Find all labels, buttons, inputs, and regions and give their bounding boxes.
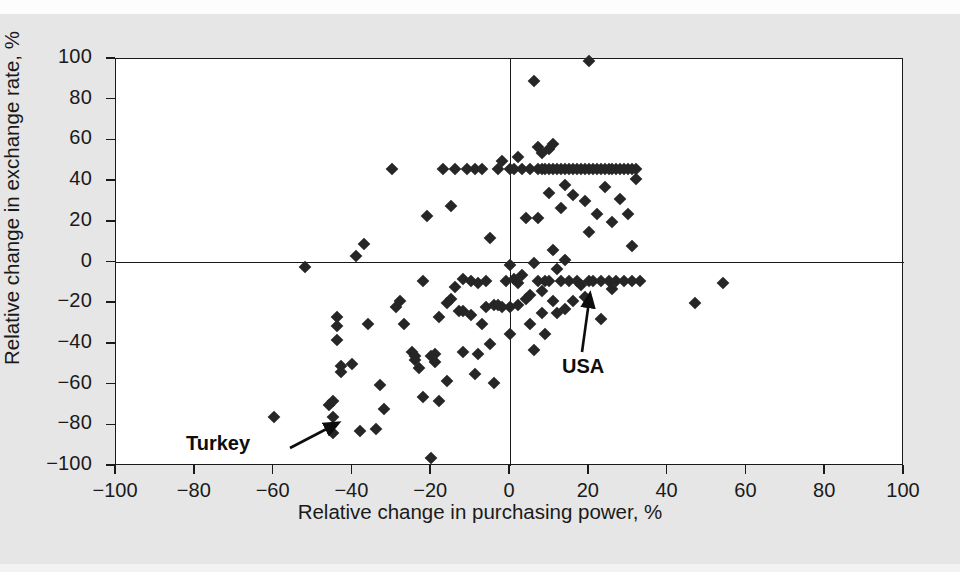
scatter-point: [413, 362, 426, 375]
scatter-point: [378, 403, 391, 416]
x-axis-tick-label: −100: [70, 479, 160, 502]
y-axis-tick-label: 60: [0, 126, 92, 149]
scatter-point: [346, 358, 359, 371]
y-axis-tick-label: −80: [0, 411, 92, 434]
scatter-point: [559, 179, 572, 192]
x-axis-tick-label: 40: [622, 479, 712, 502]
scatter-point: [350, 250, 363, 263]
scatter-point: [484, 232, 497, 245]
scatter-point: [626, 240, 639, 253]
scatter-point: [578, 291, 591, 304]
scatter-point: [504, 327, 517, 340]
scatter-point: [527, 75, 540, 88]
scatter-point: [417, 274, 430, 287]
y-axis-tick-mark: [106, 57, 115, 59]
scatter-point: [425, 451, 438, 464]
scatter-point: [523, 317, 536, 330]
scatter-point: [476, 317, 489, 330]
x-axis-tick-mark: [508, 465, 510, 474]
scatter-point: [519, 211, 532, 224]
scatter-point: [445, 199, 458, 212]
scatter-point: [326, 427, 339, 440]
scatter-point: [362, 317, 375, 330]
x-axis-tick-mark: [114, 465, 116, 474]
scatter-point: [456, 346, 469, 359]
x-axis-tick-mark: [902, 465, 904, 474]
x-axis-label: Relative change in purchasing power, %: [0, 500, 960, 524]
plot-area: [115, 58, 903, 465]
x-axis-tick-label: −60: [228, 479, 318, 502]
y-axis-tick-mark: [106, 179, 115, 181]
scatter-point: [582, 226, 595, 239]
scatter-point: [488, 376, 501, 389]
scatter-point: [547, 295, 560, 308]
scatter-point: [417, 390, 430, 403]
y-axis-tick-mark: [106, 383, 115, 385]
scatter-point: [689, 297, 702, 310]
scatter-point: [578, 195, 591, 208]
y-axis-tick-label: −20: [0, 289, 92, 312]
page-top-margin: [0, 0, 960, 14]
scatter-point: [421, 209, 434, 222]
scatter-point: [374, 378, 387, 391]
scatter-point: [472, 348, 485, 361]
y-axis-tick-label: −40: [0, 330, 92, 353]
scatter-point: [437, 163, 450, 176]
scatter-point: [590, 207, 603, 220]
scatter-point: [594, 313, 607, 326]
x-axis-tick-label: 0: [464, 479, 554, 502]
scatter-point: [634, 274, 647, 287]
scatter-point: [622, 207, 635, 220]
y-axis-tick-label: 80: [0, 86, 92, 109]
y-axis-tick-mark: [106, 139, 115, 141]
x-axis-tick-label: 20: [543, 479, 633, 502]
scatter-point: [559, 254, 572, 267]
y-axis-tick-mark: [106, 98, 115, 100]
scatter-point: [354, 425, 367, 438]
annotation-label-usa: USA: [562, 355, 604, 378]
scatter-point: [555, 201, 568, 214]
scatter-point: [370, 423, 383, 436]
y-axis-tick-mark: [106, 301, 115, 303]
scatter-point: [527, 344, 540, 357]
x-axis-tick-mark: [351, 465, 353, 474]
scatter-point: [441, 374, 454, 387]
scatter-point: [531, 211, 544, 224]
figure-container: Relative change in exchange rate, % Rela…: [0, 0, 960, 572]
scatter-point: [448, 163, 461, 176]
scatter-point: [567, 189, 580, 202]
x-axis-tick-label: 80: [779, 479, 869, 502]
scatter-point: [330, 333, 343, 346]
annotation-label-turkey: Turkey: [186, 432, 250, 455]
x-axis-tick-mark: [272, 465, 274, 474]
y-axis-tick-label: 0: [0, 249, 92, 272]
scatter-point: [358, 238, 371, 251]
scatter-point: [551, 262, 564, 275]
x-axis-tick-mark: [823, 465, 825, 474]
x-axis-tick-mark: [745, 465, 747, 474]
scatter-point: [385, 163, 398, 176]
scatter-point: [547, 244, 560, 257]
scatter-point: [267, 411, 280, 424]
scatter-point: [468, 368, 481, 381]
y-axis-tick-label: 20: [0, 208, 92, 231]
scatter-point: [397, 317, 410, 330]
x-axis-tick-label: 100: [858, 479, 948, 502]
scatter-point: [535, 307, 548, 320]
y-axis-tick-mark: [106, 220, 115, 222]
scatter-point: [606, 215, 619, 228]
x-axis-tick-mark: [193, 465, 195, 474]
scatter-point: [598, 181, 611, 194]
scatter-point: [433, 395, 446, 408]
scatter-point: [716, 276, 729, 289]
scatter-point: [433, 311, 446, 324]
scatter-point: [476, 163, 489, 176]
y-axis-tick-label: 40: [0, 167, 92, 190]
scatter-point: [504, 258, 517, 271]
y-axis-tick-label: −100: [0, 452, 92, 475]
x-axis-tick-label: −40: [306, 479, 396, 502]
scatter-point: [484, 338, 497, 351]
scatter-point: [582, 55, 595, 68]
x-axis-tick-label: −80: [149, 479, 239, 502]
scatter-point: [326, 411, 339, 424]
